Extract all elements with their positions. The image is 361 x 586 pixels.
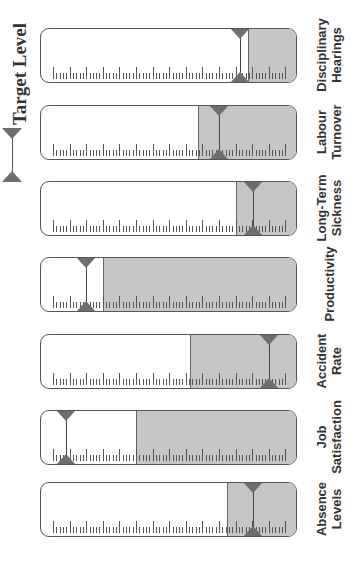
tick-scale (41, 444, 296, 464)
target-triangle-down-icon (56, 410, 76, 421)
target-triangle-down-icon (243, 181, 263, 192)
gauge-job-satisfaction (40, 410, 297, 465)
tick-scale (41, 139, 296, 159)
target-triangle-down-icon (76, 257, 96, 268)
gauge-label: AbsenceLevels (311, 459, 347, 559)
target-triangle-down-icon (243, 482, 263, 493)
target-triangle-down-icon (259, 334, 279, 345)
gauge-labour-turnover (40, 105, 297, 160)
target-triangle-up-icon (243, 225, 263, 236)
target-triangle-up-icon (230, 72, 250, 83)
legend-triangle-up-icon (2, 171, 22, 182)
gauge-label-line1: Absence (314, 459, 329, 559)
legend-target-line (12, 138, 13, 172)
gauge-absence-levels (40, 482, 297, 537)
target-triangle-up-icon (56, 454, 76, 465)
target-triangle-down-icon (209, 105, 229, 116)
target-triangle-up-icon (209, 149, 229, 160)
tick-scale (41, 62, 296, 82)
gauge-accident-rate (40, 334, 297, 389)
target-triangle-down-icon (230, 28, 250, 39)
gauge-disciplinary-hearings (40, 28, 297, 83)
target-triangle-up-icon (76, 301, 96, 312)
legend-title: Target Level (8, 14, 32, 134)
gauge-label-line2: Levels (329, 459, 344, 559)
gauge-productivity (40, 257, 297, 312)
target-triangle-up-icon (243, 526, 263, 537)
gauge-long-term-sickness (40, 181, 297, 236)
target-triangle-up-icon (259, 378, 279, 389)
tick-scale (41, 368, 296, 388)
